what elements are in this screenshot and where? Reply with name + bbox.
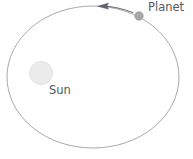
planet-body-icon [135,12,143,20]
planet-label: Planet [148,2,184,14]
sun-label: Sun [49,85,71,97]
sun-body-icon [30,62,53,85]
orbit-diagram: Planet Sun [0,0,193,159]
orbit-direction-arrow-icon [98,3,134,13]
orbit-diagram-canvas [0,0,193,159]
